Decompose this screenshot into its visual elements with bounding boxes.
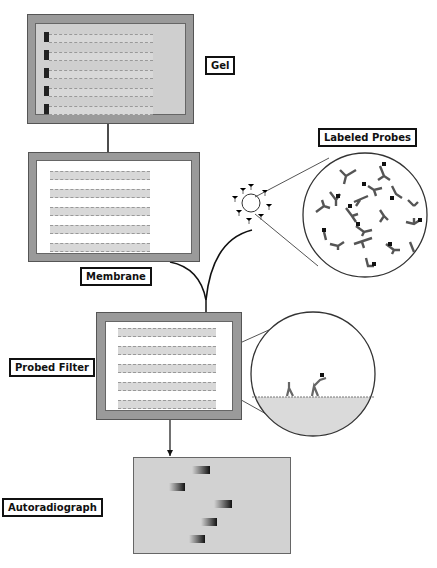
labeled-probes-label: Labeled Probes [318,128,417,147]
membrane-lane [50,189,150,198]
filter-lane [118,382,216,391]
gel-panel [27,14,194,124]
membrane-panel [28,152,200,262]
filter-lane [118,400,216,409]
probed-filter-panel [96,312,242,420]
membrane-lane [50,171,150,180]
gel-lane [49,70,153,79]
membrane-lane [50,243,150,252]
gel-label: Gel [205,56,235,75]
gel-lane [49,88,153,97]
filter-lane [118,364,216,373]
membrane-lane [50,225,150,234]
filter-lane [118,346,216,355]
filter-lane [118,328,216,337]
probed-filter-label: Probed Filter [9,358,95,377]
autoradiograph-film [133,457,291,554]
gel-lane [49,52,153,61]
gel-lane [49,34,153,43]
autoradiograph-label: Autoradiograph [2,498,103,517]
membrane-label: Membrane [80,267,152,286]
membrane-lane [50,207,150,216]
gel-lane [49,106,153,115]
